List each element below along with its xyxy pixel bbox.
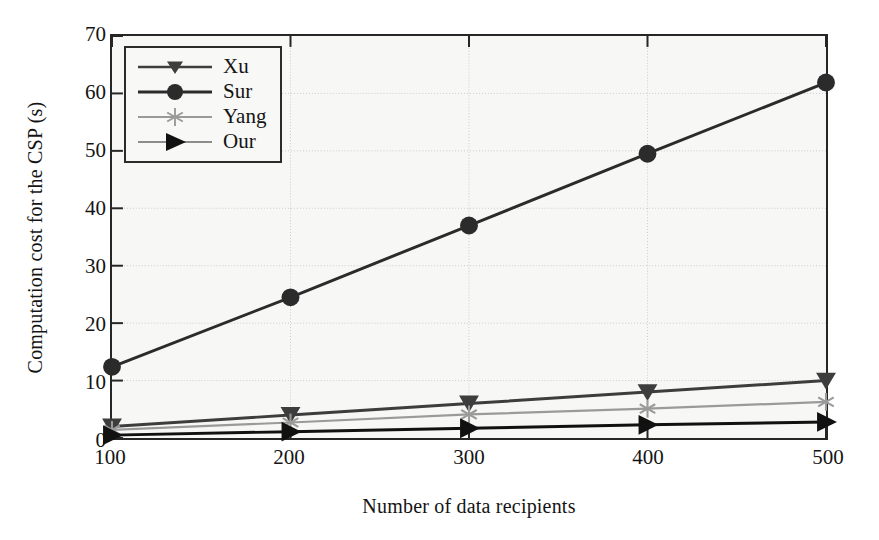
legend: Xu Sur	[124, 46, 282, 163]
y-tick-label: 60	[60, 82, 106, 103]
marker-circle-icon	[103, 358, 121, 376]
y-tick-label: 20	[60, 314, 106, 335]
legend-sample-sur	[136, 80, 214, 104]
marker-circle-icon	[639, 145, 657, 163]
legend-item-xu: Xu	[136, 54, 266, 79]
triangle-down-icon	[136, 55, 214, 79]
marker-circle-icon	[817, 74, 835, 92]
y-tick-label: 40	[60, 198, 106, 219]
legend-label-xu: Xu	[214, 56, 249, 77]
legend-label-our: Our	[214, 131, 256, 152]
marker-circle-icon	[460, 217, 478, 235]
x-tick-label: 500	[783, 447, 873, 468]
x-tick-label: 200	[244, 447, 334, 468]
legend-item-our: Our	[136, 129, 266, 154]
y-tick-label: 10	[60, 372, 106, 393]
x-tick-label: 300	[424, 447, 514, 468]
y-tick-label: 70	[60, 24, 106, 45]
legend-label-sur: Sur	[214, 81, 252, 102]
y-tick-label: 50	[60, 140, 106, 161]
circle-icon	[136, 80, 214, 104]
legend-label-yang: Yang	[214, 106, 266, 127]
legend-sample-yang	[136, 105, 214, 129]
y-tick-label: 30	[60, 256, 106, 277]
chart-figure: Computation cost for the CSP (s) 70 60 5…	[0, 0, 879, 540]
legend-item-sur: Sur	[136, 79, 266, 104]
triangle-right-icon	[136, 130, 214, 154]
legend-item-yang: Yang	[136, 104, 266, 129]
asterisk-icon	[136, 105, 214, 129]
plot-area: Xu Sur	[110, 34, 828, 440]
y-axis-label: Computation cost for the CSP (s)	[18, 35, 52, 440]
legend-sample-our	[136, 130, 214, 154]
marker-circle-icon	[282, 288, 300, 306]
x-tick-label: 100	[65, 447, 155, 468]
x-axis-label: Number of data recipients	[110, 495, 828, 518]
x-tick-label: 400	[603, 447, 693, 468]
legend-sample-xu	[136, 55, 214, 79]
